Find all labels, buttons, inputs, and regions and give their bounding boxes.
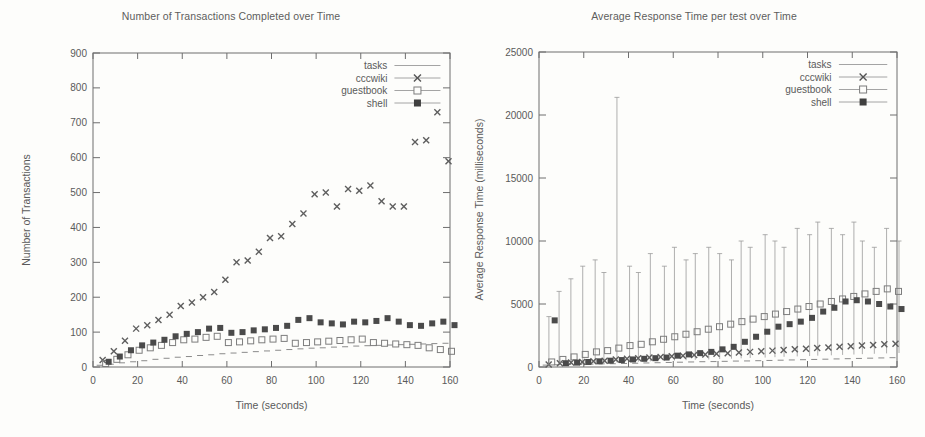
data-point	[708, 349, 714, 355]
x-tick-label: 80	[712, 375, 724, 386]
data-point	[429, 320, 435, 326]
data-point	[440, 319, 446, 325]
legend-label: cccwiki	[800, 72, 832, 83]
data-point	[270, 336, 276, 342]
x-tick-label: 20	[132, 375, 144, 386]
data-point	[831, 305, 837, 311]
y-tick-label: 10000	[505, 236, 533, 247]
data-point	[452, 322, 458, 328]
data-point	[426, 345, 432, 351]
x-tick-label: 100	[754, 375, 771, 386]
legend-label: guestbook	[785, 84, 832, 95]
data-point	[228, 330, 234, 336]
data-point	[340, 321, 346, 327]
data-point	[661, 336, 667, 342]
x-tick-label: 100	[308, 375, 325, 386]
data-point	[147, 345, 153, 351]
data-point	[582, 351, 588, 357]
x-tick-label: 40	[177, 375, 189, 386]
data-point	[809, 315, 815, 321]
data-point	[574, 360, 580, 366]
data-point	[170, 340, 176, 346]
series-guestbook	[549, 286, 902, 365]
data-point	[206, 326, 212, 332]
data-point	[593, 349, 599, 355]
x-tick-label: 40	[623, 375, 635, 386]
data-point	[619, 357, 625, 363]
data-point	[351, 319, 357, 325]
legend-marker	[414, 87, 421, 94]
legend-label: guestbook	[341, 85, 388, 96]
data-point	[292, 340, 298, 346]
data-point	[184, 331, 190, 337]
x-tick-label: 160	[889, 375, 906, 386]
x-tick-label: 120	[352, 375, 369, 386]
data-point	[326, 338, 332, 344]
x-tick-label: 140	[397, 375, 414, 386]
data-point	[362, 319, 368, 325]
data-point	[192, 336, 198, 342]
data-point	[820, 309, 826, 315]
data-point	[686, 351, 692, 357]
data-point	[150, 340, 156, 346]
data-point	[761, 314, 767, 320]
data-point	[251, 327, 257, 333]
data-point	[705, 326, 711, 332]
y-tick-label: 5000	[511, 299, 534, 310]
data-point	[214, 333, 220, 339]
data-point	[240, 329, 246, 335]
data-point	[664, 355, 670, 361]
data-point	[731, 344, 737, 350]
x-tick-label: 0	[536, 375, 542, 386]
data-point	[720, 346, 726, 352]
data-point	[742, 339, 748, 345]
y-tick-label: 600	[70, 152, 87, 163]
y-tick-label: 15000	[505, 173, 533, 184]
data-point	[806, 304, 812, 310]
data-point	[764, 329, 770, 335]
data-point	[865, 298, 871, 304]
data-point	[627, 343, 633, 349]
data-point	[173, 333, 179, 339]
data-point	[728, 321, 734, 327]
x-axis-label: Time (seconds)	[682, 399, 754, 411]
x-tick-label: 20	[578, 375, 590, 386]
data-point	[638, 341, 644, 347]
chart-figure-transactions: Number of Transactions Completed over Ti…	[0, 0, 462, 437]
data-point	[158, 342, 164, 348]
data-point	[262, 326, 268, 332]
data-point	[181, 337, 187, 343]
data-point	[404, 342, 410, 348]
data-point	[772, 311, 778, 317]
data-point	[630, 356, 636, 362]
y-tick-label: 25000	[505, 47, 533, 58]
chart-figure-response-time: Average Response Time per test over Time…	[463, 0, 925, 437]
legend-marker	[860, 86, 867, 93]
y-axis-label: Average Response Time (milliseconds)	[473, 119, 485, 301]
plot-area-transactions: 0100200300400500600700800900020406080100…	[0, 0, 462, 437]
data-point	[884, 286, 890, 292]
data-point	[876, 301, 882, 307]
data-point	[295, 317, 301, 323]
data-point	[775, 324, 781, 330]
x-tick-label: 120	[799, 375, 816, 386]
data-point	[675, 353, 681, 359]
data-point	[753, 334, 759, 340]
legend: taskscccwikiguestbookshell	[785, 59, 887, 108]
legend-label: cccwiki	[356, 73, 388, 84]
data-point	[195, 329, 201, 335]
data-point	[795, 306, 801, 312]
data-point	[273, 325, 279, 331]
legend-label: shell	[811, 97, 832, 108]
data-point	[359, 336, 365, 342]
data-point	[117, 354, 123, 360]
plot-frame	[539, 52, 897, 367]
y-tick-label: 200	[70, 292, 87, 303]
data-point	[697, 350, 703, 356]
y-tick-label: 900	[70, 48, 87, 59]
x-tick-label: 0	[90, 375, 96, 386]
data-point	[225, 340, 231, 346]
x-tick-label: 160	[442, 375, 459, 386]
x-tick-label: 80	[266, 375, 278, 386]
data-point	[608, 358, 614, 364]
